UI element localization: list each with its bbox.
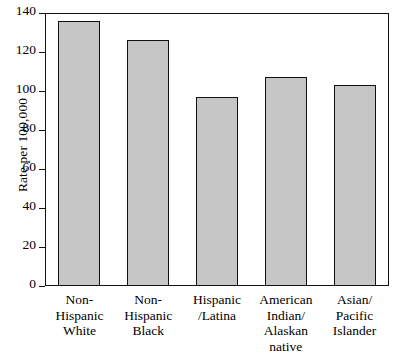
y-axis-tick-label: 100	[16, 82, 36, 96]
y-axis-tick: 100	[0, 91, 45, 92]
x-axis-label: American Indian/ Alaskan native	[251, 292, 320, 354]
y-axis-tick-mark	[39, 130, 45, 131]
y-axis-tick-label: 80	[23, 121, 37, 135]
y-axis-tick: 20	[0, 247, 45, 248]
y-axis-tick-label: 40	[23, 199, 37, 213]
y-axis-tick: 0	[0, 286, 45, 287]
y-axis-tick-mark	[39, 247, 45, 248]
y-axis-tick-label: 140	[16, 4, 36, 18]
bar	[265, 77, 307, 286]
y-axis-tick-mark	[39, 208, 45, 209]
y-axis-tick: 120	[0, 52, 45, 53]
y-axis-tick: 40	[0, 208, 45, 209]
bar	[127, 40, 169, 286]
y-axis-tick-label: 20	[23, 238, 37, 252]
bar	[334, 85, 376, 286]
y-axis-tick-mark	[39, 91, 45, 92]
y-axis-tick-label: 0	[29, 277, 36, 291]
bar-chart: Rate per 100,000 020406080100120140 Non-…	[0, 0, 402, 362]
y-axis-tick-mark	[39, 13, 45, 14]
y-axis-tick-label: 120	[16, 43, 36, 57]
y-axis-tick-label: 60	[23, 160, 37, 174]
x-axis-label: Non- Hispanic White	[45, 292, 114, 339]
x-axis-label: Non- Hispanic Black	[114, 292, 183, 339]
bar	[58, 21, 100, 286]
y-axis-tick-mark	[39, 169, 45, 170]
y-axis-tick-mark	[39, 52, 45, 53]
y-axis-tick: 60	[0, 169, 45, 170]
bar	[196, 97, 238, 286]
y-axis-tick-mark	[39, 286, 45, 287]
x-axis-label: Hispanic /Latina	[183, 292, 252, 323]
y-axis-tick: 140	[0, 13, 45, 14]
x-axis-label: Asian/ Pacific Islander	[320, 292, 389, 339]
y-axis-tick: 80	[0, 130, 45, 131]
